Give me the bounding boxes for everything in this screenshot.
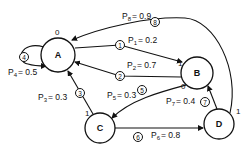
node-c: C [85, 113, 115, 143]
node-d-label: D [216, 119, 223, 129]
edge-badge-4: 4 [20, 53, 29, 62]
svg-text:P1= 0.2: P1= 0.2 [128, 35, 157, 46]
node-b: B [181, 57, 213, 89]
edge-badge-2: 2 [116, 72, 125, 81]
prob-label-8: P8= 0.9 [122, 11, 151, 22]
edge-badge-7: 7 [201, 98, 210, 107]
edge-badge-3: 3 [76, 89, 85, 98]
svg-text:2: 2 [118, 73, 122, 80]
port-label-c-in: 1 [85, 109, 90, 118]
state-diagram: A B C D 1 2 3 4 5 6 7 8 [0, 0, 248, 158]
node-d: D [204, 109, 234, 139]
svg-text:5: 5 [140, 87, 144, 94]
node-a-label: A [55, 50, 62, 60]
svg-text:1: 1 [118, 42, 122, 49]
port-label-b-in: 1 [178, 59, 183, 68]
prob-label-2: P2= 0.7 [127, 60, 156, 71]
prob-label-1: P1= 0.2 [128, 35, 157, 46]
port-label-a-in: 0 [55, 28, 60, 37]
svg-text:4: 4 [22, 54, 26, 61]
prob-label-6: P6= 0.8 [151, 130, 180, 141]
prob-label-5: P5= 0.3 [107, 90, 136, 101]
svg-text:P5= 0.3: P5= 0.3 [107, 90, 136, 101]
svg-text:3: 3 [78, 90, 82, 97]
prob-label-4: P4= 0.5 [8, 67, 37, 78]
edge-badge-1: 1 [116, 41, 125, 50]
svg-text:7: 7 [203, 99, 207, 106]
svg-text:8: 8 [153, 19, 157, 26]
svg-text:P6= 0.8: P6= 0.8 [151, 130, 180, 141]
edge-badge-5: 5 [138, 86, 147, 95]
edge-badge-8: 8 [151, 18, 160, 27]
node-c-label: C [97, 123, 104, 133]
prob-label-7: P7= 0.4 [166, 96, 195, 107]
svg-text:P2= 0.7: P2= 0.7 [127, 60, 156, 71]
port-label-b-out: 0 [181, 82, 186, 91]
svg-text:P4= 0.5: P4= 0.5 [8, 67, 37, 78]
edge-7-d-to-b [208, 86, 217, 109]
svg-text:6: 6 [136, 134, 140, 141]
node-a: A [41, 38, 75, 72]
port-label-d-out: 1 [236, 107, 241, 116]
prob-label-3: P3= 0.3 [38, 92, 67, 103]
svg-text:P3= 0.3: P3= 0.3 [38, 92, 67, 103]
edge-badge-6: 6 [134, 133, 143, 142]
svg-text:P7= 0.4: P7= 0.4 [166, 96, 195, 107]
node-b-label: B [194, 68, 201, 78]
svg-text:P8= 0.9: P8= 0.9 [122, 11, 151, 22]
